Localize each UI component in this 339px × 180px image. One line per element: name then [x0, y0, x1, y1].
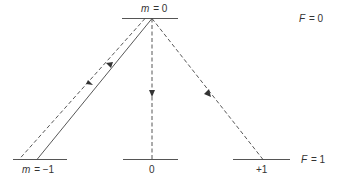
label-lower-m-minus1: m = −1: [22, 164, 55, 175]
transition-excite-from-m-minus1: [37, 19, 152, 160]
energy-level-diagram: m = 0 F = 0 m = −1 0 +1 F = 1: [0, 0, 339, 180]
transition-decay-to-m-plus1: [152, 19, 263, 160]
label-lower-m0: 0: [149, 164, 155, 175]
F-value: = 1: [311, 154, 326, 165]
F-symbol: F: [301, 154, 308, 165]
label-F1: F = 1: [301, 154, 326, 165]
m-symbol: m: [22, 164, 30, 175]
transition-decay-to-m-minus1: [19, 19, 145, 160]
m-value: = 0: [153, 3, 168, 14]
label-F0: F = 0: [299, 13, 324, 24]
F-symbol: F: [299, 13, 306, 24]
m-symbol: m: [141, 3, 149, 14]
arrow-down-left-icon: [86, 80, 93, 85]
arrow-down-right-icon: [204, 89, 211, 97]
F-value: = 0: [309, 13, 324, 24]
label-lower-m-plus1: +1: [256, 164, 268, 175]
arrow-down-icon: [149, 90, 155, 97]
m-value: = −1: [34, 164, 54, 175]
label-upper-m0: m = 0: [141, 3, 168, 14]
